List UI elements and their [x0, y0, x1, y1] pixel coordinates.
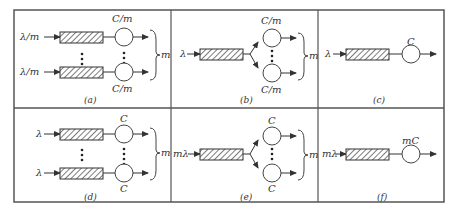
panel-c: λ C (c) — [324, 36, 436, 105]
queue-buffer — [346, 49, 389, 60]
svg-text:λ: λ — [35, 167, 42, 178]
caption: (f) — [377, 192, 388, 202]
panel-e: mλ C C m (e) — [173, 115, 318, 202]
panel-f: mλ mC (f) — [322, 135, 436, 202]
svg-text:m: m — [309, 149, 318, 160]
svg-text:C/m: C/m — [112, 13, 133, 24]
queue-buffer — [60, 32, 103, 43]
caption: (b) — [240, 95, 253, 105]
server-circle — [402, 45, 420, 63]
panel-d: λ C λ C m (d) — [35, 113, 170, 202]
svg-text:mC: mC — [402, 135, 419, 146]
queue-buffer — [200, 49, 243, 60]
queue-buffer — [346, 149, 389, 160]
svg-text:C: C — [268, 183, 276, 194]
svg-text:C/m: C/m — [112, 83, 133, 94]
server-circle — [263, 127, 281, 145]
input-label: λ/m — [19, 31, 39, 42]
panel-b: λ C/m C/m m (b) — [179, 15, 318, 105]
server-circle — [115, 63, 133, 81]
queue-buffer — [200, 149, 243, 160]
svg-text:C: C — [120, 113, 128, 124]
svg-text:C/m: C/m — [261, 84, 282, 95]
server-circle — [263, 29, 281, 47]
queueing-diagram: λ/m C/m λ/m C/m m (a) λ C/m C/m m — [0, 0, 457, 218]
svg-text:mλ: mλ — [322, 148, 338, 159]
panel-a: λ/m C/m λ/m C/m m (a) — [19, 13, 170, 105]
server-circle — [263, 164, 281, 182]
svg-text:λ: λ — [179, 48, 186, 59]
server-circle — [263, 64, 281, 82]
server-circle — [115, 28, 133, 46]
svg-text:λ: λ — [35, 128, 42, 139]
caption: (e) — [240, 192, 253, 202]
svg-text:λ: λ — [324, 48, 331, 59]
server-circle — [115, 164, 133, 182]
svg-text:m: m — [161, 49, 170, 60]
queue-buffer — [60, 129, 103, 140]
svg-text:C: C — [407, 36, 415, 47]
svg-text:C/m: C/m — [261, 15, 282, 26]
svg-text:m: m — [161, 147, 170, 158]
server-circle — [402, 145, 420, 163]
queue-buffer — [60, 67, 103, 78]
caption: (c) — [373, 95, 386, 105]
svg-text:C: C — [120, 183, 128, 194]
server-circle — [115, 125, 133, 143]
svg-text:m: m — [309, 50, 318, 61]
svg-text:λ/m: λ/m — [19, 66, 39, 77]
caption: (d) — [84, 192, 97, 202]
svg-text:mλ: mλ — [173, 148, 189, 159]
caption: (a) — [84, 95, 97, 105]
svg-text:C: C — [268, 115, 276, 126]
queue-buffer — [60, 168, 103, 179]
